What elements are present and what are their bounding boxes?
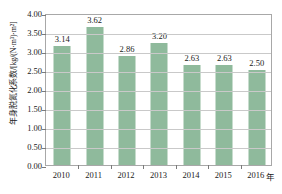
y-axis-tick-mark xyxy=(42,148,46,149)
bar-slot: 2.63 xyxy=(176,15,208,165)
x-axis-tick-label: 2013 xyxy=(150,170,167,180)
x-axis-unit-label: 年 xyxy=(266,170,275,182)
bar[interactable] xyxy=(183,65,200,165)
x-axis-tick-mark xyxy=(78,165,79,169)
gridline xyxy=(46,34,271,35)
bar-chart: 年身脱氮化系数/[kg/(N·m³)·m²] 0.000.501.001.502… xyxy=(0,0,282,194)
bar[interactable] xyxy=(151,43,168,165)
x-axis-tick-mark xyxy=(241,165,242,169)
gridline xyxy=(46,53,271,54)
bar-slot: 3.62 xyxy=(78,15,110,165)
gridline xyxy=(46,110,271,111)
gridline xyxy=(46,72,271,73)
x-axis-tick-label: 2011 xyxy=(85,170,102,180)
y-axis-tick-mark xyxy=(42,53,46,54)
bar-slot: 2.50 xyxy=(241,15,273,165)
bar-series: 3.143.622.863.202.632.632.50 xyxy=(46,15,271,165)
y-axis-tick-label: 1.50 xyxy=(14,104,42,114)
y-axis-tick-mark xyxy=(42,72,46,73)
bar-value-label: 3.20 xyxy=(152,31,167,41)
y-axis-tick-label: 2.50 xyxy=(14,66,42,76)
y-axis-tick-mark xyxy=(42,167,46,168)
x-axis-tick-mark xyxy=(176,165,177,169)
y-axis-tick-label: 0.00 xyxy=(14,161,42,171)
x-axis-tick-mark xyxy=(143,165,144,169)
bar-value-label: 2.63 xyxy=(184,53,199,63)
bar-value-label: 3.62 xyxy=(87,15,102,25)
y-axis-tick-mark xyxy=(42,91,46,92)
y-axis-tick-mark xyxy=(42,110,46,111)
gridline xyxy=(46,148,271,149)
x-axis-tick-label: 2012 xyxy=(118,170,135,180)
y-axis-tick-label: 3.50 xyxy=(14,28,42,38)
bar-value-label: 2.63 xyxy=(217,53,232,63)
x-axis-tick-labels: 2010201120122013201420152016 xyxy=(45,170,272,186)
bar[interactable] xyxy=(216,65,233,165)
y-axis-tick-label: 1.00 xyxy=(14,123,42,133)
y-axis-tick-label: 3.00 xyxy=(14,47,42,57)
bar-slot: 2.86 xyxy=(111,15,143,165)
x-axis-tick-mark xyxy=(111,165,112,169)
plot-area: 3.143.622.863.202.632.632.50 xyxy=(45,14,272,166)
bar-value-label: 2.50 xyxy=(249,58,264,68)
y-axis-tick-label: 4.00 xyxy=(14,9,42,19)
gridline xyxy=(46,91,271,92)
y-axis-tick-mark xyxy=(42,34,46,35)
y-axis-tick-mark xyxy=(42,129,46,130)
y-axis-tick-labels: 0.000.501.001.502.002.503.003.504.00 xyxy=(14,8,44,180)
y-axis-tick-mark xyxy=(42,15,46,16)
bar-slot: 2.63 xyxy=(208,15,240,165)
bar[interactable] xyxy=(86,27,103,165)
y-axis-tick-label: 2.00 xyxy=(14,85,42,95)
x-axis-tick-label: 2015 xyxy=(215,170,232,180)
x-axis-tick-label: 2016 xyxy=(247,170,264,180)
gridline xyxy=(46,129,271,130)
x-axis-tick-label: 2014 xyxy=(182,170,199,180)
bar-slot: 3.14 xyxy=(46,15,78,165)
y-axis-tick-label: 0.50 xyxy=(14,142,42,152)
bar-value-label: 3.14 xyxy=(55,34,70,44)
bar-slot: 3.20 xyxy=(143,15,175,165)
x-axis-tick-label: 2010 xyxy=(53,170,70,180)
bar[interactable] xyxy=(248,70,265,165)
x-axis-tick-mark xyxy=(208,165,209,169)
